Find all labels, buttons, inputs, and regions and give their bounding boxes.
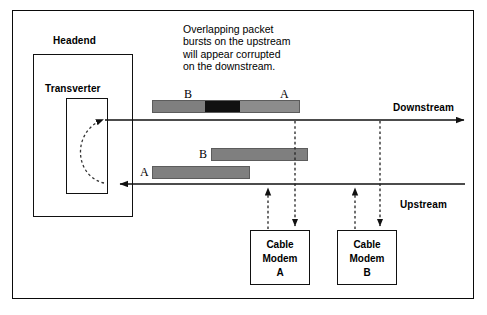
- cable-modem-a-line3: A: [251, 267, 309, 278]
- upstream-burst-a-bar: [152, 166, 250, 179]
- cable-modem-a-box: Cable Modem A: [250, 230, 310, 285]
- downstream-label: Downstream: [393, 102, 454, 113]
- annotation-text: Overlapping packet bursts on the upstrea…: [183, 23, 343, 73]
- cable-modem-a-line1: Cable: [251, 239, 309, 250]
- cable-modem-b-line1: Cable: [338, 239, 396, 250]
- transverter-box: [66, 98, 108, 194]
- diagram-canvas: Headend Transverter Overlapping packet b…: [0, 0, 487, 315]
- cable-modem-a-line2: Modem: [251, 253, 309, 264]
- downstream-segment-a: [240, 101, 299, 112]
- downstream-segment-collision: [205, 101, 240, 112]
- downstream-bar-label-a: A: [280, 87, 289, 102]
- cable-modem-b-box: Cable Modem B: [337, 230, 397, 285]
- cable-modem-b-line2: Modem: [338, 253, 396, 264]
- downstream-packet-bar: [152, 100, 300, 113]
- headend-label: Headend: [53, 35, 96, 46]
- upstream-burst-b-bar: [211, 148, 308, 161]
- upstream-burst-b-label: B: [199, 147, 207, 162]
- downstream-bar-label-b: B: [184, 87, 192, 102]
- upstream-burst-a-label: A: [140, 165, 149, 180]
- transverter-label: Transverter: [45, 83, 101, 94]
- cable-modem-b-line3: B: [338, 267, 396, 278]
- upstream-label: Upstream: [400, 199, 447, 210]
- downstream-segment-b: [153, 101, 205, 112]
